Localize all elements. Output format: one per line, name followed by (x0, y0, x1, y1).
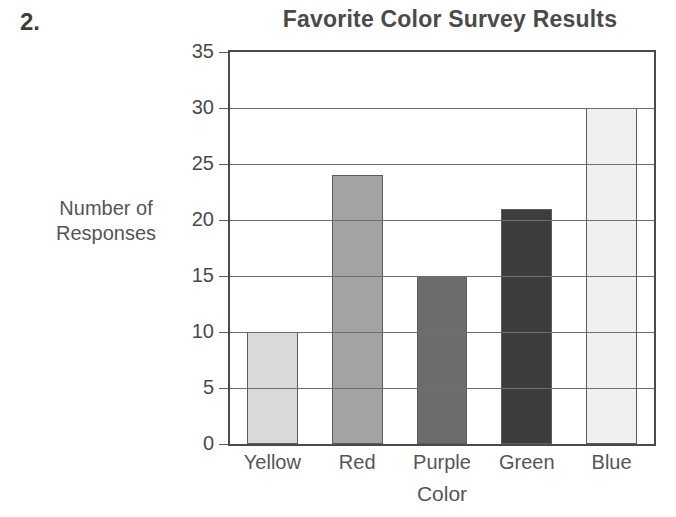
x-tick-label-yellow: Yellow (230, 452, 315, 472)
plot-area (228, 50, 656, 446)
y-tick-label-0: 0 (170, 433, 214, 453)
y-tick-label-30: 30 (170, 97, 214, 117)
gridline-10 (230, 332, 654, 333)
y-tick-label-25: 25 (170, 153, 214, 173)
y-tick-mark-10 (219, 332, 228, 333)
y-axis-title-line-1: Number of (26, 196, 186, 221)
y-axis-title: Number of Responses (26, 196, 186, 246)
y-tick-label-5: 5 (170, 377, 214, 397)
gridline-5 (230, 388, 654, 389)
x-tick-label-red: Red (315, 452, 400, 472)
y-tick-mark-0 (219, 444, 228, 445)
y-tick-mark-5 (219, 388, 228, 389)
y-tick-mark-30 (219, 108, 228, 109)
y-tick-label-10: 10 (170, 321, 214, 341)
y-tick-mark-25 (219, 164, 228, 165)
bar-green (501, 209, 552, 444)
y-tick-label-20: 20 (170, 209, 214, 229)
gridline-15 (230, 276, 654, 277)
bar-red (332, 175, 383, 444)
y-tick-label-15: 15 (170, 265, 214, 285)
x-tick-label-green: Green (484, 452, 569, 472)
gridline-20 (230, 220, 654, 221)
chart-page: 2. Favorite Color Survey Results Number … (0, 0, 676, 517)
y-tick-mark-15 (219, 276, 228, 277)
question-number: 2. (20, 8, 40, 36)
chart-title: Favorite Color Survey Results (243, 6, 657, 33)
y-tick-mark-35 (219, 52, 228, 53)
gridline-25 (230, 164, 654, 165)
y-axis-title-line-2: Responses (26, 221, 186, 246)
bars-layer (230, 52, 654, 444)
bar-purple (417, 276, 468, 444)
x-tick-label-purple: Purple (400, 452, 485, 472)
x-axis-title: Color (228, 482, 656, 506)
y-tick-label-35: 35 (170, 41, 214, 61)
y-tick-mark-20 (219, 220, 228, 221)
x-tick-label-blue: Blue (569, 452, 654, 472)
gridline-30 (230, 108, 654, 109)
